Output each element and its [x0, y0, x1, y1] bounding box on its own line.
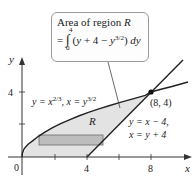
lower-limit: 0: [66, 44, 70, 52]
callout-integral: = ∫ 4 0 (y + 4 − y3/2) dy: [57, 32, 143, 49]
y-axis-arrow-icon: [19, 57, 25, 65]
strip-rectangle: [39, 135, 103, 145]
region-label: R: [88, 115, 96, 127]
y-axis-label: y: [8, 53, 14, 65]
figure: y x 0 4 8 4 R (8, 4) y = x2/3, x = y3/2 …: [0, 0, 195, 177]
differential: dy: [130, 34, 140, 46]
area-formula-callout: Area of region R = ∫ 4 0 (y + 4 − y3/2) …: [51, 12, 149, 62]
curve-label: y = x2/3, x = y3/2: [31, 95, 97, 107]
line-label-2: x = y + 4: [128, 129, 166, 140]
callout-title-text: Area of region: [57, 16, 124, 28]
x-axis-label: x: [184, 162, 190, 174]
integrand-mid: + 4 −: [81, 34, 110, 46]
intersection-point: [148, 89, 153, 94]
callout-leader-line: [108, 62, 120, 108]
line-label-1: y = x − 4,: [128, 116, 169, 127]
equals-sign: =: [57, 34, 63, 46]
x-axis-arrow-icon: [184, 154, 192, 160]
callout-title-var: R: [124, 16, 131, 28]
origin-label: 0: [14, 162, 19, 173]
y-tick-label-4: 4: [8, 87, 13, 98]
integrand-exponent: 3/2: [115, 34, 124, 42]
point-label: (8, 4): [150, 97, 172, 109]
x-tick-label-8: 8: [148, 163, 153, 174]
x-tick-label-4: 4: [84, 163, 89, 174]
upper-limit: 4: [69, 26, 73, 34]
